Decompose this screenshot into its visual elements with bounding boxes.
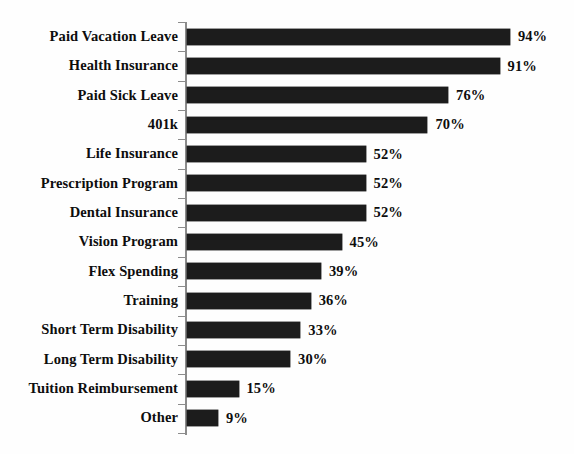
bar-and-value: 45% xyxy=(187,227,379,256)
bar xyxy=(187,263,321,279)
bar-value-label: 39% xyxy=(329,263,358,280)
bar-row: Tuition Reimbursement15% xyxy=(0,374,574,403)
bar-value-label: 70% xyxy=(435,116,464,133)
bar-value-label: 52% xyxy=(374,146,403,163)
bar-and-value: 70% xyxy=(187,110,465,139)
bar-and-value: 33% xyxy=(187,315,338,344)
bar xyxy=(187,234,342,250)
bar-and-value: 36% xyxy=(187,286,348,315)
bar-value-label: 36% xyxy=(319,292,348,309)
bar-and-value: 52% xyxy=(187,139,403,168)
bar-and-value: 15% xyxy=(187,374,276,403)
bar-value-label: 94% xyxy=(518,28,547,45)
bar-and-value: 30% xyxy=(187,345,327,374)
category-label: Dental Insurance xyxy=(70,198,178,227)
bar-value-label: 33% xyxy=(308,322,337,339)
bar-value-label: 30% xyxy=(298,351,327,368)
bar-and-value: 52% xyxy=(187,169,403,198)
category-label: Training xyxy=(123,286,178,315)
bar xyxy=(187,87,448,103)
bar-value-label: 45% xyxy=(350,234,379,251)
bar-and-value: 76% xyxy=(187,81,485,110)
bar-value-label: 9% xyxy=(226,410,248,427)
bar-row-group: Paid Vacation Leave94%Health Insurance91… xyxy=(0,22,574,433)
bar-row: Paid Vacation Leave94% xyxy=(0,22,574,51)
axis-tick xyxy=(178,433,185,434)
category-label: Prescription Program xyxy=(41,169,178,198)
bar xyxy=(187,293,311,309)
bar-and-value: 9% xyxy=(187,403,248,432)
bar-row: Other9% xyxy=(0,403,574,432)
bar-row: Short Term Disability33% xyxy=(0,315,574,344)
bar xyxy=(187,322,300,338)
bar xyxy=(187,117,427,133)
bar-value-label: 15% xyxy=(247,380,276,397)
bar-row: Prescription Program52% xyxy=(0,169,574,198)
bar-value-label: 52% xyxy=(374,204,403,221)
bar-row: Training36% xyxy=(0,286,574,315)
bar xyxy=(187,381,239,397)
category-label: Life Insurance xyxy=(86,139,178,168)
category-label: Vision Program xyxy=(79,227,178,256)
bar-row: Life Insurance52% xyxy=(0,139,574,168)
category-label: Flex Spending xyxy=(88,257,178,286)
bar xyxy=(187,58,500,74)
bar-row: Long Term Disability30% xyxy=(0,345,574,374)
bar-row: 401k70% xyxy=(0,110,574,139)
category-label: Health Insurance xyxy=(69,51,178,80)
bar xyxy=(187,146,366,162)
bar xyxy=(187,410,218,426)
category-label: Long Term Disability xyxy=(44,345,178,374)
bar-value-label: 52% xyxy=(374,175,403,192)
bar-and-value: 39% xyxy=(187,257,358,286)
category-label: Paid Sick Leave xyxy=(77,81,178,110)
category-label: Tuition Reimbursement xyxy=(29,374,178,403)
bar-row: Flex Spending39% xyxy=(0,257,574,286)
plot-area: Paid Vacation Leave94%Health Insurance91… xyxy=(0,0,574,454)
bar-row: Paid Sick Leave76% xyxy=(0,81,574,110)
bar-chart: Paid Vacation Leave94%Health Insurance91… xyxy=(0,0,574,454)
bar-and-value: 94% xyxy=(187,22,547,51)
bar-row: Health Insurance91% xyxy=(0,51,574,80)
category-label: Short Term Disability xyxy=(41,315,178,344)
bar xyxy=(187,205,366,221)
category-label: Paid Vacation Leave xyxy=(50,22,178,51)
bar xyxy=(187,29,510,45)
bar xyxy=(187,175,366,191)
bar xyxy=(187,351,290,367)
bar-and-value: 91% xyxy=(187,51,537,80)
bar-row: Vision Program45% xyxy=(0,227,574,256)
category-label: 401k xyxy=(148,110,178,139)
bar-value-label: 76% xyxy=(456,87,485,104)
bar-row: Dental Insurance52% xyxy=(0,198,574,227)
bar-value-label: 91% xyxy=(508,58,537,75)
bar-and-value: 52% xyxy=(187,198,403,227)
category-label: Other xyxy=(140,403,178,432)
